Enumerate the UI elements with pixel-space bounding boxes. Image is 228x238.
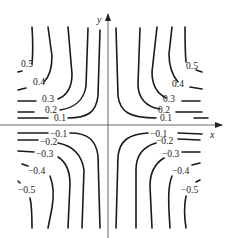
label-lr-0.2: −0.2: [156, 136, 173, 146]
label-ur-0.3: 0.3: [163, 94, 175, 104]
label-lr-0.5: −0.5: [181, 185, 198, 195]
label-ur-0.1: 0.1: [160, 113, 172, 123]
contour-ll-0.1: [18, 133, 100, 228]
contour-plot: x y 0.5 0.4 0.3 0.2 0.1 0.5 0.4 0.3 0.2: [0, 0, 228, 238]
y-axis-label: y: [96, 14, 102, 25]
label-ll-0.2: −0.2: [40, 137, 57, 147]
label-ll-0.4: −0.4: [28, 166, 45, 176]
label-ur-0.5: 0.5: [186, 61, 198, 71]
contour-lr-0.1: [116, 133, 202, 228]
label-ul-0.1: 0.1: [54, 113, 66, 123]
label-ul-0.4: 0.4: [33, 77, 45, 87]
label-ul-0.5: 0.5: [21, 59, 33, 69]
label-lr-0.4: −0.4: [172, 166, 189, 176]
label-ur-0.4: 0.4: [172, 79, 184, 89]
label-ll-0.5: −0.5: [18, 185, 35, 195]
contour-lines: [18, 27, 208, 228]
x-axis-label: x: [209, 129, 215, 140]
label-lr-0.3: −0.3: [162, 149, 179, 159]
label-ul-0.3: 0.3: [42, 94, 54, 104]
label-ll-0.3: −0.3: [36, 149, 53, 159]
